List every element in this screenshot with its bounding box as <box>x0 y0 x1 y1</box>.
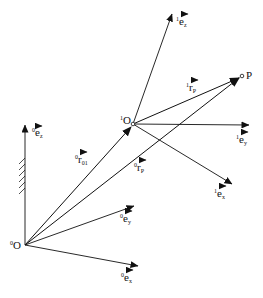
svg-text:0r01: 0r01 <box>75 153 88 166</box>
axis-1-ex <box>133 124 232 184</box>
svg-text:1rP: 1rP <box>186 81 197 94</box>
vector-accent-arrows <box>80 14 248 270</box>
label-e1y: 1ey <box>236 133 247 146</box>
point-P <box>240 74 244 78</box>
svg-text:0rP: 0rP <box>134 161 145 174</box>
label-r0P: 0rP <box>134 161 145 174</box>
label-O0: 0O <box>10 239 21 251</box>
label-P: P <box>246 69 252 81</box>
label-e0y: 0ey <box>120 212 131 225</box>
axis-0-ex <box>25 245 138 266</box>
point-O1 <box>131 122 135 126</box>
svg-text:0ez: 0ez <box>32 126 43 139</box>
svg-text:1ex: 1ex <box>214 187 225 200</box>
label-e0z: 0ez <box>32 126 43 139</box>
vector-r01 <box>25 127 131 245</box>
svg-text:0ey: 0ey <box>120 212 131 225</box>
svg-text:0ex: 0ex <box>121 271 132 284</box>
axis-1-ez <box>133 14 172 124</box>
label-e0x: 0ex <box>121 271 132 284</box>
vector-r0P <box>25 78 239 245</box>
label-r1P: 1rP <box>186 81 197 94</box>
label-e1x: 1ex <box>214 187 225 200</box>
label-r01: 0r01 <box>75 153 88 166</box>
axis-1-ey <box>133 124 249 125</box>
label-O1: 1O <box>120 114 131 126</box>
kinematics-diagram: 0O 1O P 0ez 0ey 0ex 1ez 1ey 1ex 0r01 0rP… <box>0 0 263 298</box>
svg-text:1ey: 1ey <box>236 133 247 146</box>
axis-0-ey <box>25 206 134 245</box>
ground-hatch <box>19 158 25 194</box>
label-e1z: 1ez <box>176 15 187 28</box>
svg-text:1ez: 1ez <box>176 15 187 28</box>
